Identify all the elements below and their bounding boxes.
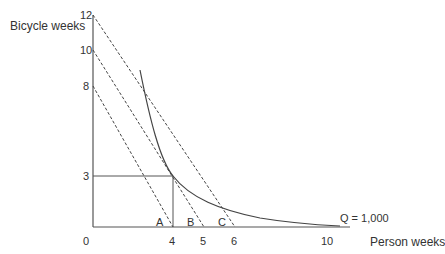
x-tick-6: 6	[231, 236, 237, 247]
y-axis-label: Bicycle weeks	[10, 20, 85, 32]
isocost-line-c	[93, 15, 235, 227]
isocost-line-b	[93, 50, 204, 227]
isoquant-curve	[140, 70, 340, 226]
x-tick-5: 5	[200, 236, 206, 247]
x-tick-4: 4	[169, 236, 175, 247]
isoquant-label: Q = 1,000	[340, 213, 389, 224]
isocost-line-a	[93, 86, 173, 227]
point-a-label: A	[156, 217, 163, 228]
point-c-label: C	[218, 217, 226, 228]
y-tick-8: 8	[83, 81, 89, 92]
y-tick-12: 12	[80, 10, 92, 21]
point-b-label: B	[187, 217, 194, 228]
y-tick-10: 10	[80, 45, 92, 56]
origin-label: 0	[83, 236, 89, 247]
x-axis-label: Person weeks	[370, 236, 445, 248]
y-tick-3: 3	[83, 171, 89, 182]
x-tick-10: 10	[321, 236, 333, 247]
